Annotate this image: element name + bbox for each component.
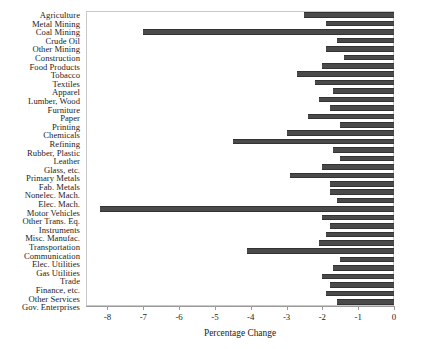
bar	[326, 46, 394, 52]
bar	[319, 240, 394, 246]
bar	[308, 114, 394, 120]
bar	[340, 257, 394, 263]
bar	[326, 21, 394, 27]
bar	[304, 12, 394, 18]
bar	[322, 215, 394, 221]
x-tick-label: -7	[128, 312, 158, 322]
bar	[233, 139, 394, 145]
bar-row	[86, 38, 394, 44]
bar-row	[86, 156, 394, 162]
bar-row	[86, 46, 394, 52]
bar	[326, 291, 394, 297]
bar	[330, 223, 394, 229]
bar-row	[86, 55, 394, 61]
bar-row	[86, 274, 394, 280]
bar-row	[86, 248, 394, 254]
x-tick-label: -6	[164, 312, 194, 322]
bar-row	[86, 265, 394, 271]
x-tick-label: -1	[343, 312, 373, 322]
bar	[337, 299, 394, 305]
x-tick	[143, 306, 144, 310]
bar-row	[86, 173, 394, 179]
x-tick-label: -5	[200, 312, 230, 322]
bar	[287, 130, 394, 136]
bar-row	[86, 299, 394, 305]
bar-row	[86, 147, 394, 153]
bar-row	[86, 130, 394, 136]
x-axis-title: Percentage Change	[86, 328, 394, 338]
x-tick	[215, 306, 216, 310]
bar-row	[86, 88, 394, 94]
bar-row	[86, 12, 394, 18]
bar	[340, 156, 394, 162]
bar	[330, 282, 394, 288]
x-tick	[394, 306, 395, 310]
bar	[326, 232, 394, 238]
bar-row	[86, 223, 394, 229]
bar-row	[86, 105, 394, 111]
category-label: Gov. Enterprises	[0, 303, 80, 312]
bar-row	[86, 206, 394, 212]
bar	[290, 173, 394, 179]
bar-row	[86, 122, 394, 128]
bar-row	[86, 97, 394, 103]
bar	[337, 198, 394, 204]
bar	[319, 97, 394, 103]
bar	[340, 122, 394, 128]
bar	[100, 206, 394, 212]
bar-chart: AgricultureMetal MiningCoal MiningCrude …	[0, 0, 428, 349]
bar	[330, 181, 394, 187]
x-tick	[107, 306, 108, 310]
bar	[330, 105, 394, 111]
bar	[297, 71, 394, 77]
x-tick	[358, 306, 359, 310]
bar-row	[86, 63, 394, 69]
x-axis-line	[86, 306, 394, 307]
bar-row	[86, 29, 394, 35]
bar-row	[86, 139, 394, 145]
bar	[333, 265, 394, 271]
bar	[315, 80, 394, 86]
bar-row	[86, 215, 394, 221]
bar-row	[86, 21, 394, 27]
bar-row	[86, 181, 394, 187]
bar-row	[86, 198, 394, 204]
category-axis-labels: AgricultureMetal MiningCoal MiningCrude …	[0, 11, 80, 306]
x-tick	[251, 306, 252, 310]
bar	[337, 38, 394, 44]
bar-row	[86, 232, 394, 238]
x-tick-label: -3	[272, 312, 302, 322]
x-tick-label: -2	[307, 312, 337, 322]
bar	[322, 274, 394, 280]
bar	[344, 55, 394, 61]
bar-row	[86, 257, 394, 263]
bar	[143, 29, 394, 35]
bar	[322, 164, 394, 170]
bar	[333, 88, 394, 94]
x-tick	[322, 306, 323, 310]
bar-row	[86, 291, 394, 297]
bar-row	[86, 114, 394, 120]
bar	[322, 63, 394, 69]
bar-row	[86, 189, 394, 195]
bar	[330, 189, 394, 195]
x-tick-label: 0	[379, 312, 409, 322]
bar-row	[86, 164, 394, 170]
x-tick	[179, 306, 180, 310]
bar-row	[86, 240, 394, 246]
bar-row	[86, 71, 394, 77]
x-tick-label: -4	[236, 312, 266, 322]
bar-row	[86, 282, 394, 288]
x-tick	[287, 306, 288, 310]
x-tick-label: -8	[92, 312, 122, 322]
bar	[333, 147, 394, 153]
bar-row	[86, 80, 394, 86]
bar	[247, 248, 394, 254]
bars-layer	[86, 11, 394, 306]
